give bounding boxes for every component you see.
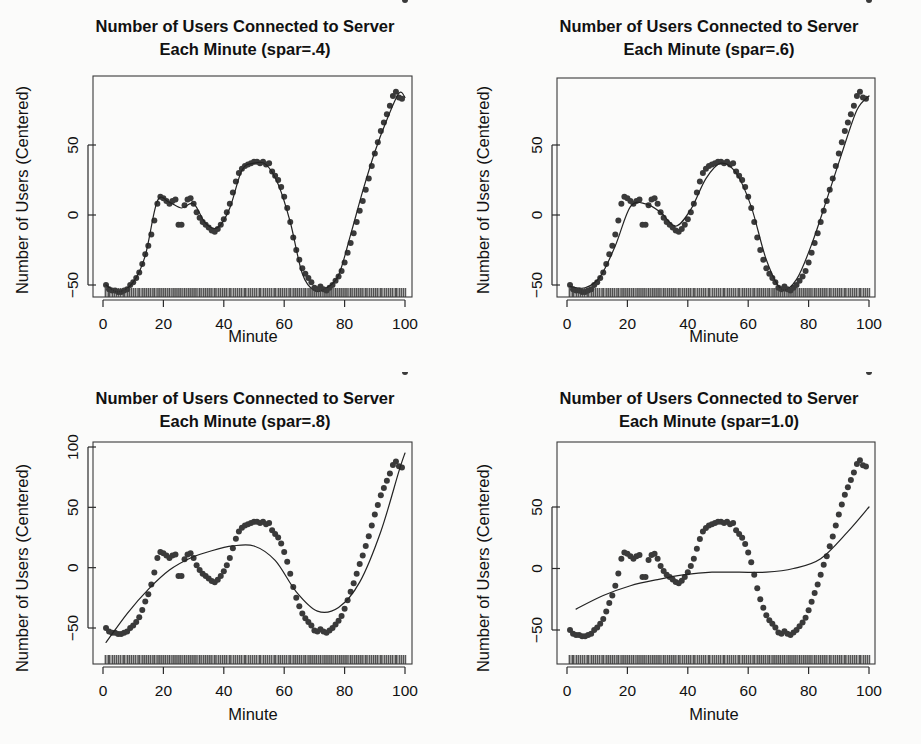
x-tick-label: 20 — [155, 682, 173, 699]
x-tick-label: 40 — [215, 682, 233, 699]
x-axis-label: Minute — [689, 327, 739, 345]
y-tick-label: −50 — [64, 614, 81, 641]
x-tick-label: 0 — [563, 315, 572, 332]
x-axis: 020406080100 — [99, 667, 419, 699]
smooth-spline-curve — [106, 92, 405, 292]
panel-title-line1: Number of Users Connected to Server — [560, 389, 859, 407]
x-tick-label: 60 — [276, 315, 294, 332]
smooth-spline-curve — [106, 453, 405, 642]
panel-spar-0-4: Number of Users Connected to Server Each… — [0, 0, 460, 372]
y-tick-label: 50 — [528, 498, 545, 516]
y-tick-label: −50 — [528, 271, 545, 298]
panel-spar-0-8: Number of Users Connected to Server Each… — [0, 372, 460, 744]
y-tick-label: −50 — [528, 616, 545, 643]
x-tick-label: 100 — [856, 315, 882, 332]
panel-chart-svg: Number of Users Connected to Server Each… — [461, 0, 921, 372]
panel-title-line1: Number of Users Connected to Server — [560, 17, 859, 35]
x-tick-label: 40 — [679, 682, 697, 699]
panel-title-line1: Number of Users Connected to Server — [96, 17, 395, 35]
y-tick-label: 50 — [64, 136, 81, 154]
panel-chart-svg: Number of Users Connected to Server Each… — [0, 372, 460, 744]
x-tick-label: 40 — [215, 315, 233, 332]
x-tick-label: 80 — [800, 315, 818, 332]
x-tick-label: 80 — [800, 682, 818, 699]
rug-marks — [569, 655, 870, 664]
y-tick-label: 100 — [64, 434, 81, 460]
y-axis: −50050100 — [64, 434, 96, 641]
panel-spar-0-6: Number of Users Connected to Server Each… — [461, 0, 921, 372]
y-axis-label: Number of Users (Centered) — [474, 464, 492, 672]
panel-title-line1: Number of Users Connected to Server — [96, 389, 395, 407]
y-tick-label: 0 — [528, 210, 545, 219]
y-axis: −50050 — [64, 136, 96, 298]
panel-title-line2: Each Minute (spar=1.0) — [619, 412, 799, 430]
x-tick-label: 80 — [336, 682, 354, 699]
x-tick-label: 100 — [392, 682, 418, 699]
panel-title-line2: Each Minute (spar=.6) — [623, 40, 794, 58]
y-axis: −50050 — [528, 136, 560, 298]
rug-marks — [569, 288, 870, 297]
x-tick-label: 20 — [619, 315, 637, 332]
y-tick-label: 0 — [64, 210, 81, 219]
x-tick-label: 60 — [276, 682, 294, 699]
y-tick-label: 50 — [64, 498, 81, 516]
x-tick-label: 60 — [740, 315, 758, 332]
x-tick-label: 0 — [99, 682, 108, 699]
x-axis-label: Minute — [228, 705, 278, 723]
y-axis: −50050 — [528, 498, 560, 643]
panel-chart-svg: Number of Users Connected to Server Each… — [461, 372, 921, 744]
panel-title-line2: Each Minute (spar=.8) — [159, 412, 330, 430]
panel-chart-svg: Number of Users Connected to Server Each… — [0, 0, 460, 372]
y-tick-label: 50 — [528, 136, 545, 154]
x-axis-label: Minute — [689, 705, 739, 723]
y-tick-label: −50 — [64, 271, 81, 298]
y-axis-label: Number of Users (Centered) — [13, 464, 31, 672]
y-axis-label: Number of Users (Centered) — [13, 86, 31, 294]
x-tick-label: 20 — [155, 315, 173, 332]
x-tick-label: 80 — [336, 315, 354, 332]
smooth-spline-curve — [570, 96, 869, 290]
rug-marks — [105, 655, 406, 664]
y-tick-label: 0 — [64, 563, 81, 572]
rug-marks — [105, 288, 406, 297]
x-tick-label: 100 — [392, 315, 418, 332]
x-tick-label: 0 — [563, 682, 572, 699]
x-tick-label: 100 — [856, 682, 882, 699]
x-tick-label: 60 — [740, 682, 758, 699]
x-tick-label: 40 — [679, 315, 697, 332]
x-axis-label: Minute — [228, 327, 278, 345]
panel-spar-1-0: Number of Users Connected to Server Each… — [461, 372, 921, 744]
figure-canvas: Number of Users Connected to Server Each… — [0, 0, 921, 744]
x-tick-label: 0 — [99, 315, 108, 332]
x-axis: 020406080100 — [563, 667, 883, 699]
x-tick-label: 20 — [619, 682, 637, 699]
y-tick-label: 0 — [528, 564, 545, 573]
panel-title-line2: Each Minute (spar=.4) — [159, 40, 330, 58]
y-axis-label: Number of Users (Centered) — [474, 86, 492, 294]
